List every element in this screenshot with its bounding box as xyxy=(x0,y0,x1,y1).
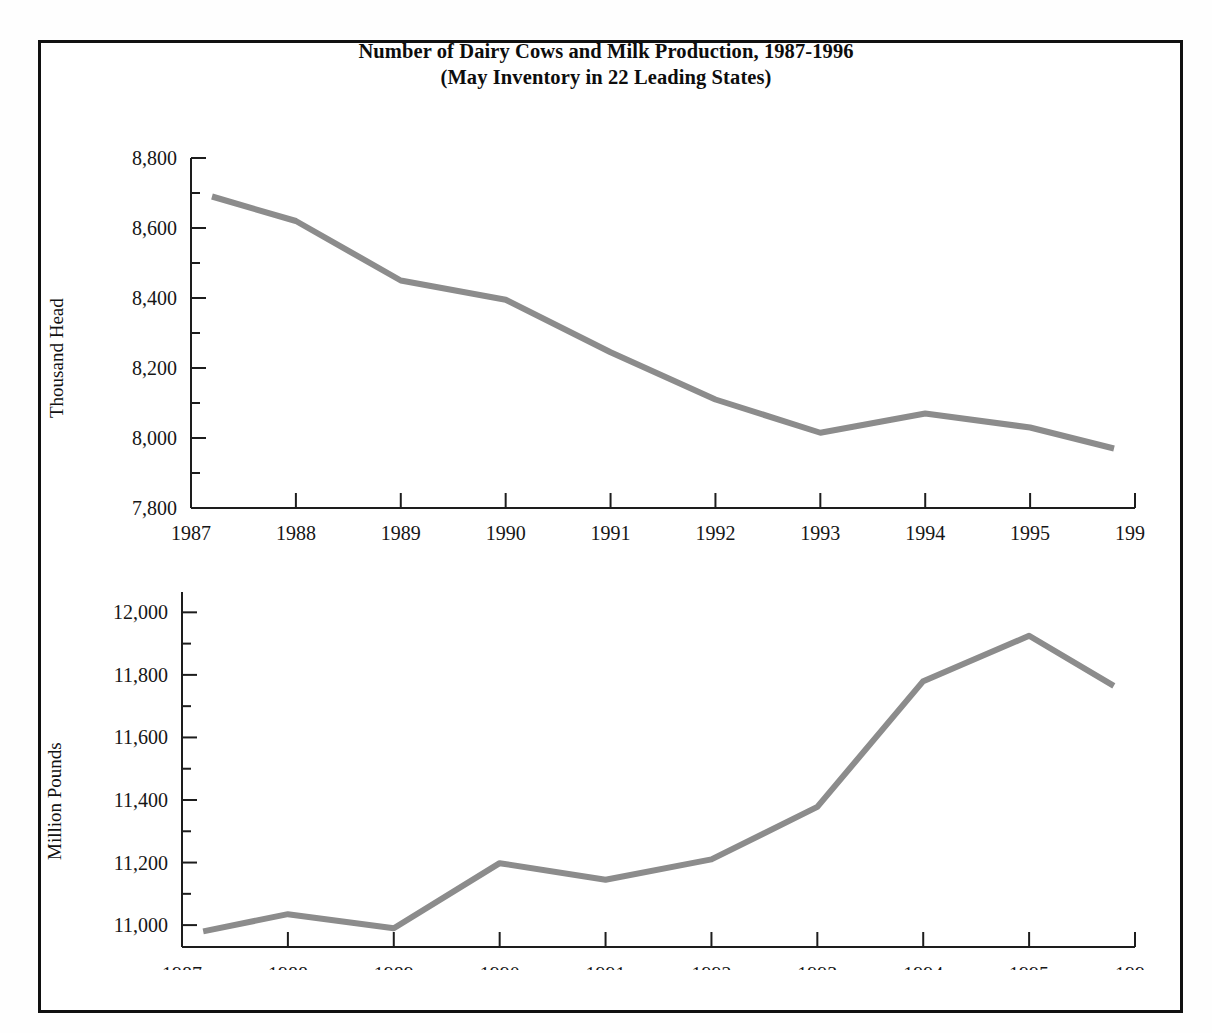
y-tick-label: 8,000 xyxy=(132,427,177,449)
x-tick-label: 1988 xyxy=(268,963,308,970)
y-tick-label: 11,200 xyxy=(114,852,168,874)
chart-panel-milk-production: Million Pounds 11,00011,20011,40011,6001… xyxy=(0,540,1145,970)
x-tick-label: 1989 xyxy=(374,963,414,970)
y-tick-label: 8,400 xyxy=(132,287,177,309)
y-tick-label: 7,800 xyxy=(132,497,177,519)
x-tick-label: 1990 xyxy=(480,963,520,970)
y-tick-label: 11,600 xyxy=(114,726,168,748)
y-tick-label: 8,200 xyxy=(132,357,177,379)
y-tick-label: 8,600 xyxy=(132,217,177,239)
x-tick-label: 1994 xyxy=(903,963,943,970)
y-axis-title-top: Thousand Head xyxy=(46,298,68,418)
figure-page: Number of Dairy Cows and Milk Production… xyxy=(0,0,1212,1033)
chart-panel-dairy-cows: Thousand Head 7,8008,0008,2008,4008,6008… xyxy=(0,118,1145,548)
data-series-line xyxy=(212,197,1114,449)
x-tick-label: 1991 xyxy=(586,963,626,970)
x-tick-label: 1996 xyxy=(1115,963,1145,970)
x-tick-label: 1995 xyxy=(1009,963,1049,970)
y-tick-label: 11,000 xyxy=(114,914,168,936)
y-tick-label: 11,400 xyxy=(114,789,168,811)
y-tick-label: 8,800 xyxy=(132,147,177,169)
x-tick-label: 1987 xyxy=(162,963,202,970)
x-tick-label: 1993 xyxy=(797,963,837,970)
x-tick-label: 1992 xyxy=(691,963,731,970)
dairy-cows-plot: 7,8008,0008,2008,4008,6008,8001987198819… xyxy=(0,118,1145,548)
y-tick-label: 11,800 xyxy=(114,664,168,686)
data-series-line xyxy=(203,636,1114,932)
y-axis-title-bottom: Million Pounds xyxy=(44,742,66,860)
milk-production-plot: 11,00011,20011,40011,60011,80012,0001987… xyxy=(0,540,1145,970)
y-tick-label: 12,000 xyxy=(113,601,168,623)
